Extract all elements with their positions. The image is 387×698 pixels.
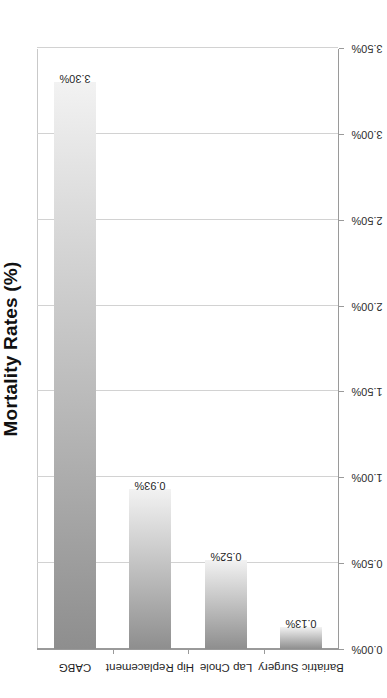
value-tick-2.50% — [339, 220, 344, 221]
value-axis-label-2.50%: 2.50% — [347, 215, 387, 227]
bar-hip-replacement — [129, 489, 171, 649]
chart-title: Mortality Rates (%) — [0, 0, 22, 698]
bar-value-label-cabg: 3.30% — [53, 71, 97, 87]
value-axis-label-2.00%: 2.00% — [347, 301, 387, 313]
bar-value-label-lap-chole: 0.52% — [204, 549, 248, 565]
value-axis-label-1.50%: 1.50% — [347, 386, 387, 398]
category-tick-1 — [264, 649, 265, 654]
value-tick-2.00% — [339, 306, 344, 307]
bar-cabg — [54, 82, 96, 649]
value-axis-label-0.00%: 0.00% — [347, 644, 387, 656]
category-label-cabg: CABG — [20, 660, 130, 676]
gridline-3.50% — [37, 47, 338, 48]
bar-value-label-hip-replacement: 0.93% — [128, 478, 172, 494]
value-axis-label-3.50%: 3.50% — [347, 43, 387, 55]
bar-value-label-bariatric-surgery: 0.13% — [279, 616, 323, 632]
value-axis-label-0.50%: 0.50% — [347, 558, 387, 570]
value-axis-label-3.00%: 3.00% — [347, 129, 387, 141]
plot-area — [37, 49, 339, 650]
bar-lap-chole — [205, 560, 247, 649]
value-tick-0.00% — [339, 649, 344, 650]
value-axis-label-1.00%: 1.00% — [347, 472, 387, 484]
value-tick-3.50% — [339, 48, 344, 49]
category-tick-3 — [113, 649, 114, 654]
plot-top-rule — [37, 49, 38, 649]
value-tick-0.50% — [339, 563, 344, 564]
value-tick-1.00% — [339, 477, 344, 478]
category-tick-2 — [188, 649, 189, 654]
value-tick-1.50% — [339, 391, 344, 392]
value-tick-3.00% — [339, 134, 344, 135]
